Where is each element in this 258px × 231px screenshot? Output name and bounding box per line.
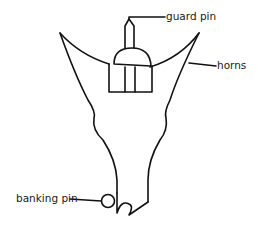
fork-outline-right [148,33,199,202]
slot-rectangle [109,64,152,92]
horns-leader [189,63,216,66]
guard-pin [125,19,134,48]
guard-pin-leader [129,17,165,19]
guard-dome [114,48,151,66]
horn-curve-right [150,33,199,67]
horns-label: horns [217,59,246,71]
banking-pin-circle [102,195,115,208]
guard-pin-label: guard pin [166,10,216,22]
banking-pin-label: banking pin [16,192,78,204]
horn-curve-left [60,33,109,64]
fork-outline [60,33,117,193]
fork-tail-notch [117,193,148,215]
lever-diagram: guard pin horns banking pin [0,0,258,231]
